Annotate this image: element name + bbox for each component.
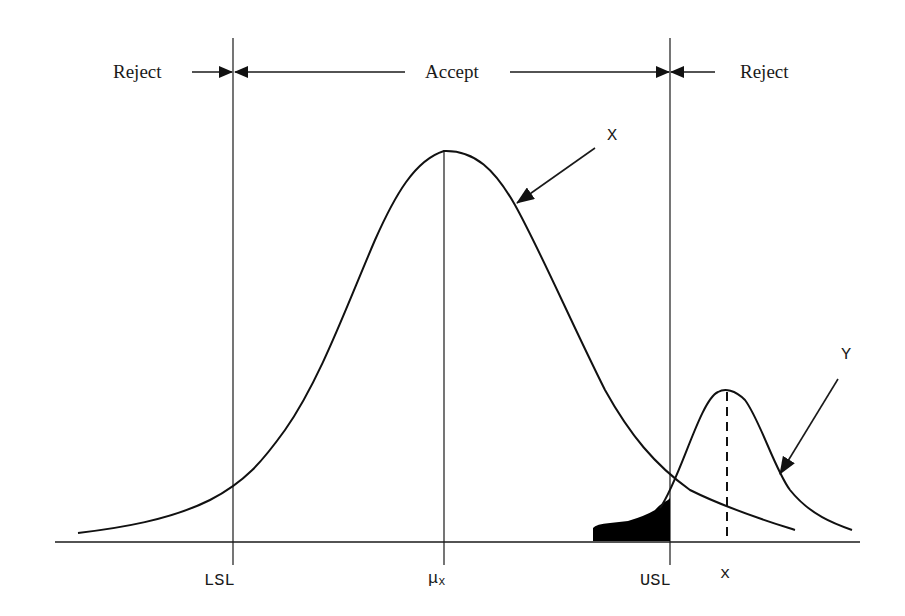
x-value-label: x: [720, 564, 730, 583]
x-curve-pointer-arrow: [517, 148, 595, 203]
mean-subscript: x: [438, 575, 445, 589]
shaded-overlap-area: [593, 498, 670, 541]
x-curve-label: X: [607, 126, 617, 145]
distribution-x-curve: [78, 151, 795, 533]
spec-limits-diagram: Reject Accept Reject X Y LSL μx USL x: [0, 0, 905, 616]
lsl-label: LSL: [204, 571, 235, 590]
accept-label: Accept: [425, 61, 480, 82]
right-reject-label: Reject: [740, 61, 789, 82]
mean-label: μx: [428, 569, 445, 589]
mean-symbol: μ: [428, 569, 438, 588]
left-reject-label: Reject: [113, 61, 162, 82]
y-curve-label: Y: [841, 345, 851, 364]
distribution-y-curve: [660, 390, 852, 530]
y-curve-pointer-arrow: [780, 379, 838, 474]
usl-label: USL: [640, 571, 671, 590]
